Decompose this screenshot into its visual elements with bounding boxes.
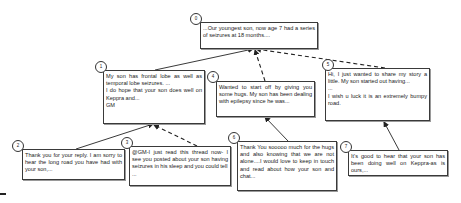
edge-3-to-1 [154, 125, 197, 146]
post-node-5: Hi, I just wanted to share my story a li… [325, 68, 430, 121]
node-number-badge-2: 2 [12, 140, 24, 152]
node-number-badge-0: 0 [190, 13, 202, 25]
node-number-badge-7: 7 [340, 141, 352, 153]
node-number-badge-5: 5 [322, 59, 334, 71]
post-node-7: It's good to hear that your son has been… [348, 150, 448, 176]
node-number-badge-1: 1 [95, 61, 107, 73]
post-node-6: Thank You sooooo much for the hugs and a… [237, 141, 337, 191]
node-number-badge-3: 3 [121, 137, 133, 149]
post-node-2: Thank you for your reply. I am sorry to … [22, 149, 125, 180]
post-node-4: Wanted to start off by giving you some h… [216, 81, 315, 117]
post-text: Thank you for your reply. I am sorry to … [25, 152, 122, 174]
post-text: Hi, I just wanted to share my story a li… [328, 71, 427, 85]
post-node-0: ...Our youngest son, now age 7 had a ser… [200, 22, 318, 49]
node-number-badge-6: 6 [228, 132, 240, 144]
post-text: @GM-I just read this thread now- I see y… [132, 149, 228, 171]
post-node-1: My son has frontal lobe as well as tempo… [103, 70, 205, 124]
post-text: It's good to hear that your son has been… [351, 153, 445, 175]
post-text: Wanted to start off by giving you some h… [219, 84, 312, 106]
post-text: ...Our youngest son, now age 7 had a ser… [203, 25, 315, 39]
post-text: My son has frontal lobe as well as tempo… [106, 73, 202, 87]
edge-6-to-4 [265, 117, 288, 141]
post-text: GM [106, 102, 202, 109]
node-number-badge-4: 4 [207, 71, 219, 83]
post-text: Thank You sooooo much for the hugs and a… [240, 144, 334, 180]
edge-5-to-0 [256, 49, 385, 68]
post-text: I do hope that your son does well on Kep… [106, 87, 202, 101]
edge-mark [0, 193, 6, 195]
edge-1-to-0 [155, 49, 253, 70]
post-node-3: @GM-I just read this thread now- I see y… [129, 146, 231, 186]
edge-4-to-0 [255, 50, 265, 81]
post-text: ... [132, 171, 228, 178]
post-text: ... [328, 85, 427, 92]
reply-tree-diagram: ...Our youngest son, now age 7 had a ser… [0, 0, 461, 203]
edge-7-to-5 [384, 122, 399, 150]
post-text: I wish u luck it is an extremely bumpy r… [328, 93, 427, 107]
